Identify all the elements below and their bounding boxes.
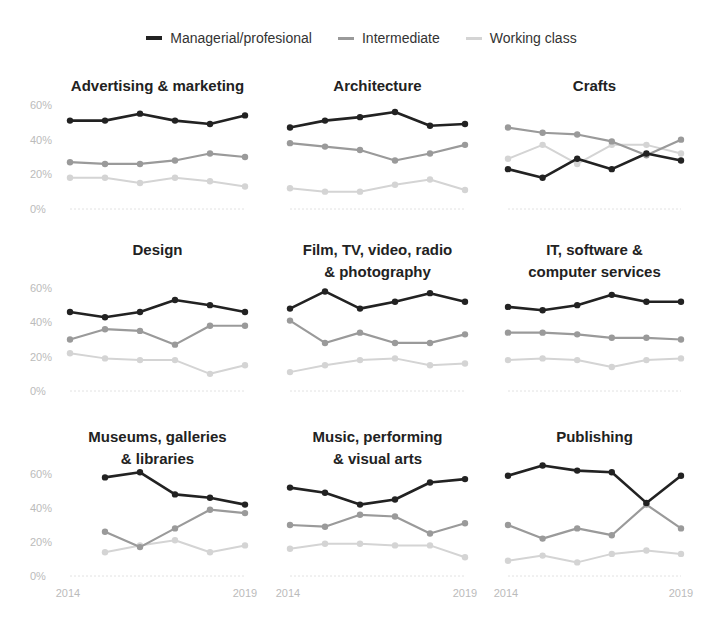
data-point xyxy=(505,156,511,162)
data-point xyxy=(172,117,178,123)
y-tick-label: 20% xyxy=(30,351,52,363)
data-point xyxy=(678,355,684,361)
data-point xyxy=(539,130,545,136)
data-point xyxy=(322,143,328,149)
data-point xyxy=(505,304,511,310)
data-point xyxy=(172,175,178,181)
series-line xyxy=(508,466,681,503)
panel-title: Architecture xyxy=(333,77,421,94)
data-point xyxy=(242,510,248,516)
data-point xyxy=(462,187,468,193)
panel-title: IT, software & xyxy=(546,241,643,258)
data-point xyxy=(539,307,545,313)
data-point xyxy=(609,292,615,298)
data-point xyxy=(609,469,615,475)
data-point xyxy=(643,335,649,341)
y-tick-label: 20% xyxy=(30,168,52,180)
x-tick-label: 2014 xyxy=(56,587,80,599)
panel-title: Film, TV, video, radio xyxy=(303,241,452,258)
x-tick-label: 2019 xyxy=(453,587,477,599)
data-point xyxy=(462,554,468,560)
data-point xyxy=(102,326,108,332)
data-point xyxy=(643,299,649,305)
data-point xyxy=(539,552,545,558)
data-point xyxy=(427,479,433,485)
data-point xyxy=(67,175,73,181)
data-point xyxy=(392,299,398,305)
data-point xyxy=(102,314,108,320)
data-point xyxy=(392,496,398,502)
data-point xyxy=(574,357,580,363)
panel-title: Advertising & marketing xyxy=(71,77,244,94)
data-point xyxy=(392,182,398,188)
data-point xyxy=(427,340,433,346)
data-point xyxy=(172,341,178,347)
data-point xyxy=(643,142,649,148)
data-point xyxy=(67,309,73,315)
data-point xyxy=(287,124,293,130)
data-point xyxy=(574,131,580,137)
data-point xyxy=(609,551,615,557)
data-point xyxy=(505,329,511,335)
data-point xyxy=(678,551,684,557)
series-line xyxy=(508,551,681,563)
data-point xyxy=(357,188,363,194)
data-point xyxy=(574,525,580,531)
data-point xyxy=(207,507,213,513)
series-line xyxy=(105,472,245,504)
data-point xyxy=(67,336,73,342)
series-line xyxy=(290,358,465,372)
data-point xyxy=(505,357,511,363)
series-line xyxy=(70,300,245,317)
data-point xyxy=(207,121,213,127)
x-tick-label: 2014 xyxy=(276,587,300,599)
data-point xyxy=(102,117,108,123)
data-point xyxy=(102,161,108,167)
data-point xyxy=(207,323,213,329)
data-point xyxy=(392,513,398,519)
data-point xyxy=(462,476,468,482)
data-point xyxy=(137,309,143,315)
data-point xyxy=(505,522,511,528)
data-point xyxy=(172,537,178,543)
data-point xyxy=(678,150,684,156)
data-point xyxy=(678,336,684,342)
data-point xyxy=(207,549,213,555)
y-tick-label: 40% xyxy=(30,134,52,146)
data-point xyxy=(67,117,73,123)
data-point xyxy=(242,542,248,548)
panel-title: Crafts xyxy=(573,77,616,94)
data-point xyxy=(574,302,580,308)
data-point xyxy=(172,491,178,497)
series-line xyxy=(70,154,245,164)
data-point xyxy=(574,156,580,162)
x-tick-label: 2014 xyxy=(494,587,518,599)
data-point xyxy=(427,362,433,368)
data-point xyxy=(357,512,363,518)
series-line xyxy=(70,114,245,124)
data-point xyxy=(643,547,649,553)
data-point xyxy=(392,355,398,361)
data-point xyxy=(609,138,615,144)
small-multiples-chart: Advertising & marketing0%20%40%60%Archit… xyxy=(0,0,723,629)
series-line xyxy=(290,515,465,534)
data-point xyxy=(102,474,108,480)
series-line xyxy=(508,505,681,539)
data-point xyxy=(539,142,545,148)
data-point xyxy=(287,546,293,552)
data-point xyxy=(505,558,511,564)
series-line xyxy=(290,544,465,558)
data-point xyxy=(462,520,468,526)
series-line xyxy=(70,178,245,187)
data-point xyxy=(539,355,545,361)
series-line xyxy=(290,291,465,308)
x-tick-label: 2019 xyxy=(233,587,257,599)
data-point xyxy=(322,288,328,294)
data-point xyxy=(357,357,363,363)
data-point xyxy=(678,299,684,305)
data-point xyxy=(287,140,293,146)
series-line xyxy=(508,154,681,178)
data-point xyxy=(574,331,580,337)
data-point xyxy=(505,124,511,130)
data-point xyxy=(539,175,545,181)
